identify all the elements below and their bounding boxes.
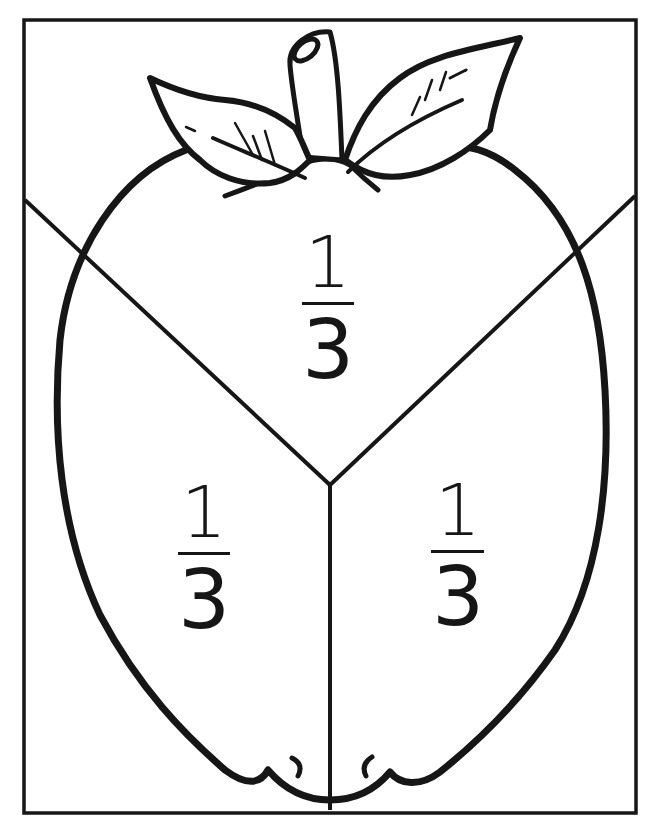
fraction-right-denominator: 3 [432, 549, 484, 644]
fraction-right: 1 3 [431, 468, 484, 644]
left-leaf [150, 78, 310, 183]
fraction-top-denominator: 3 [302, 302, 354, 397]
fraction-left: 1 3 [178, 470, 230, 647]
fraction-top: 1 3 [302, 220, 354, 397]
apple-fraction-worksheet: 1 3 1 3 1 3 [0, 0, 651, 832]
divider-left [25, 200, 330, 485]
fraction-right-numerator: 1 [435, 468, 481, 552]
fraction-left-numerator: 1 [181, 470, 227, 554]
divider-right [330, 196, 635, 485]
fraction-top-numerator: 1 [305, 220, 351, 304]
fraction-left-denominator: 3 [178, 552, 230, 647]
